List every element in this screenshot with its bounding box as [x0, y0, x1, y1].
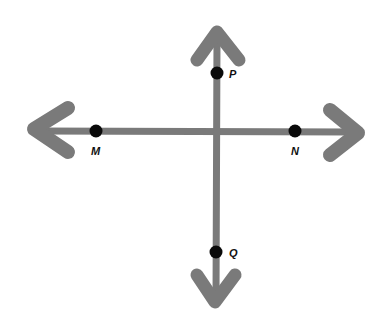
point-P: P: [211, 67, 238, 81]
point-label: N: [291, 145, 300, 157]
perpendicular-lines-diagram: P M N Q: [0, 0, 391, 331]
point-label: P: [229, 68, 237, 80]
point-label: M: [91, 145, 101, 157]
horizontal-line: [34, 108, 358, 155]
point-N: N: [289, 125, 302, 158]
point-Q: Q: [210, 246, 239, 260]
point-label: Q: [229, 247, 238, 259]
point-M: M: [90, 125, 103, 158]
